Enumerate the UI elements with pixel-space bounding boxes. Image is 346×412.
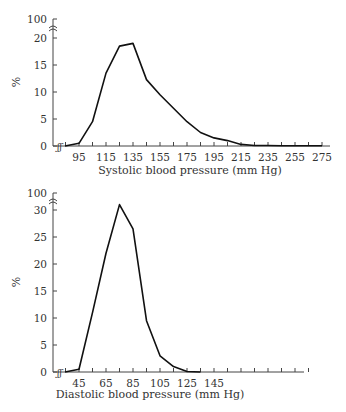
y-tick-label: 25 — [34, 231, 47, 243]
y-tick-label: 15 — [34, 59, 47, 71]
y-tick-label: 0 — [40, 140, 47, 152]
x-tick-label: 135 — [123, 151, 143, 163]
systolic-chart: ʃʃ 05101520100 9511513515517519521523525… — [10, 13, 332, 177]
y-tick-label: 5 — [40, 339, 47, 351]
x-tick-label: 175 — [177, 151, 197, 163]
x-tick-label: 255 — [285, 151, 305, 163]
systolic-y-label: % — [10, 77, 23, 87]
y-tick-label: 5 — [40, 113, 47, 125]
systolic-curve — [65, 43, 322, 146]
x-tick-label: 115 — [96, 151, 116, 163]
x-tick-label: 195 — [204, 151, 224, 163]
x-tick-label: 235 — [258, 151, 278, 163]
y-tick-label: 20 — [34, 258, 47, 270]
y-tick-label: 100 — [27, 13, 47, 25]
y-tick-label: 10 — [34, 86, 47, 98]
diastolic-x-break-icon: ʃʃ — [55, 368, 63, 378]
y-tick-label: 100 — [27, 187, 47, 199]
diastolic-x-label: Diastolic blood pressure (mm Hg) — [56, 388, 245, 401]
y-tick-label: 10 — [34, 312, 47, 324]
diastolic-chart: ʃʃ 051015202530100 456585105125145 Diast… — [10, 187, 309, 401]
y-tick-label: 0 — [40, 366, 47, 378]
y-tick-label: 15 — [34, 285, 47, 297]
chart-canvas: ʃʃ 05101520100 9511513515517519521523525… — [0, 0, 346, 412]
x-tick-label: 155 — [150, 151, 170, 163]
diastolic-curve — [65, 205, 201, 372]
x-tick-label: 215 — [231, 151, 251, 163]
diastolic-y-label: % — [10, 277, 23, 287]
y-tick-label: 20 — [34, 32, 47, 44]
systolic-x-break-icon: ʃʃ — [55, 142, 63, 152]
systolic-x-label: Systolic blood pressure (mm Hg) — [98, 164, 282, 177]
y-tick-label: 30 — [34, 204, 47, 216]
x-tick-label: 95 — [72, 151, 85, 163]
x-tick-label: 275 — [312, 151, 332, 163]
